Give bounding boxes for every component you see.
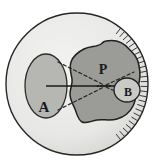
label-a: A <box>39 99 50 115</box>
label-b: B <box>124 85 132 99</box>
figure-container: APB <box>0 0 158 167</box>
point-marker-dot <box>103 85 105 87</box>
label-p: P <box>99 62 108 77</box>
point-marker-dot <box>106 85 108 87</box>
point-marker-dot <box>97 85 99 87</box>
point-marker-dot <box>100 85 102 87</box>
point-marker-dot <box>109 85 111 87</box>
diagram-canvas: APB <box>0 0 158 167</box>
